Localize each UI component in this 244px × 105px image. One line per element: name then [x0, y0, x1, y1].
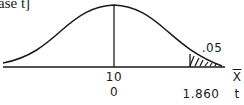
center-t-label: 0: [110, 85, 118, 99]
bell-curve: [3, 5, 222, 66]
distribution-diagram: ase t] .05 10 0 1.860 X t: [0, 0, 244, 105]
tail-area-label: .05: [202, 41, 223, 55]
x-axis-label: X: [233, 70, 242, 84]
t-axis-label: t: [234, 87, 239, 101]
center-x-label: 10: [106, 70, 122, 84]
critical-t-label: 1.860: [183, 87, 220, 101]
